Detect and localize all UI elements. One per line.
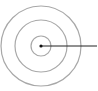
concentric-circles-diagram (0, 0, 98, 91)
center-dot (39, 44, 42, 47)
